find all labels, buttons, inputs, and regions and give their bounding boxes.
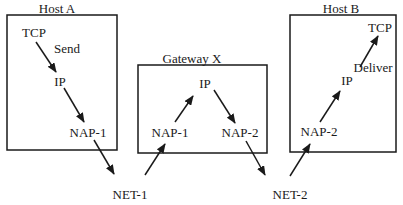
host-a-title: Host A <box>39 2 75 15</box>
host-a-ip-label: IP <box>54 75 66 88</box>
arrow-host-a-nap1-to-net1 <box>94 140 114 174</box>
arrow-net2-to-host-b-nap2 <box>290 144 310 176</box>
host-b-tcp-label: TCP <box>368 21 392 34</box>
host-b-ip-label: IP <box>341 74 353 87</box>
host-a-tcp-label: TCP <box>22 26 46 39</box>
net2-label: NET-2 <box>273 188 308 201</box>
arrow-gateway-ip-to-nap2 <box>214 90 235 123</box>
host-b-deliver-label: Deliver <box>354 61 393 74</box>
arrow-net1-to-gateway-nap1 <box>145 144 165 175</box>
gateway-x-ip-label: IP <box>199 77 211 90</box>
gateway-x-nap1-label: NAP-1 <box>152 126 189 139</box>
host-a-nap1-label: NAP-1 <box>70 126 107 139</box>
host-b-nap2-label: NAP-2 <box>301 125 338 138</box>
host-b-title: Host B <box>323 2 359 15</box>
gateway-x-nap2-label: NAP-2 <box>222 126 259 139</box>
gateway-x-title: Gateway X <box>163 52 222 65</box>
net1-label: NET-1 <box>113 188 148 201</box>
arrow-gateway-nap1-to-ip <box>175 96 193 122</box>
arrow-host-a-tcp-to-ip <box>36 42 56 72</box>
arrow-host-a-ip-to-nap1 <box>64 88 84 122</box>
arrow-host-b-nap2-to-ip <box>320 91 340 122</box>
host-a-send-label: Send <box>54 42 80 55</box>
arrow-gateway-nap2-to-net2 <box>246 141 265 175</box>
diagram-canvas <box>0 0 403 205</box>
